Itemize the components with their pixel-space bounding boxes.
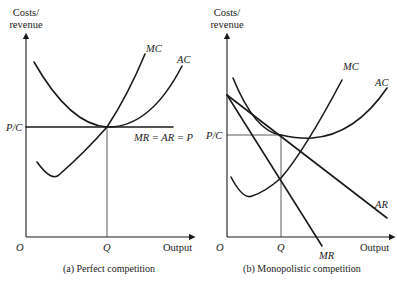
mr-label: MR bbox=[318, 250, 335, 261]
price-cost-label: P/C bbox=[5, 122, 23, 133]
ac-curve bbox=[34, 62, 182, 127]
caption: (a) Perfect competition bbox=[63, 263, 155, 275]
origin-label: O bbox=[216, 242, 224, 253]
x-axis-label: Output bbox=[360, 242, 389, 253]
ac-label: AC bbox=[374, 77, 389, 88]
y-axis-label-line2: revenue bbox=[9, 19, 43, 30]
y-axis-label-line2: revenue bbox=[210, 19, 244, 30]
ac-label: AC bbox=[176, 54, 191, 65]
mr-curve bbox=[227, 95, 322, 246]
x-axis-label: Output bbox=[163, 242, 192, 253]
panel-monopolistic-competition: Costs/ revenue MC AC AR MR P/C O Q Outpu… bbox=[205, 7, 392, 275]
mc-curve bbox=[37, 54, 145, 177]
ac-curve bbox=[233, 78, 387, 138]
quantity-label: Q bbox=[103, 242, 111, 253]
y-axis-label-line1: Costs/ bbox=[214, 7, 240, 18]
price-cost-label: P/C bbox=[205, 130, 223, 141]
diagram: Costs/ revenue MC AC MR = AR = P P/C O Q… bbox=[0, 0, 397, 288]
origin-label: O bbox=[16, 242, 24, 253]
caption: (b) Monopolistic competition bbox=[243, 263, 361, 275]
y-axis-label-line1: Costs/ bbox=[13, 7, 39, 18]
quantity-label: Q bbox=[277, 242, 285, 253]
demand-label: MR = AR = P bbox=[133, 132, 193, 143]
panel-perfect-competition: Costs/ revenue MC AC MR = AR = P P/C O Q… bbox=[5, 7, 193, 275]
mc-curve bbox=[231, 80, 342, 197]
mc-label: MC bbox=[342, 61, 360, 72]
mc-label: MC bbox=[145, 43, 163, 54]
ar-label: AR bbox=[374, 199, 388, 210]
